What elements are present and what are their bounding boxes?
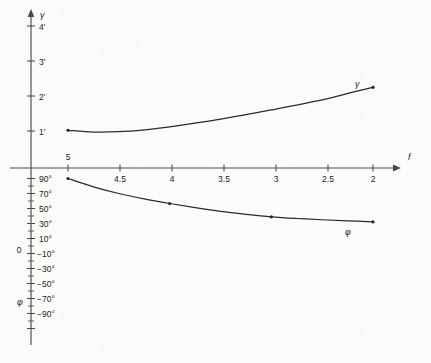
f-tick-label-5: 5	[66, 152, 71, 162]
data-point-marker	[371, 86, 374, 89]
data-point-marker	[66, 177, 69, 180]
vertical-axis	[28, 9, 35, 345]
phi-tick-label-neg90: −90°	[37, 309, 55, 319]
f-tick-label-3p5: 3.5	[218, 174, 230, 184]
phi-axis-symbol: φ	[17, 297, 23, 307]
gamma-tick-label-2: 2'	[39, 92, 46, 102]
gamma-axis-symbol: γ	[40, 10, 45, 20]
f-tick-label-2p5: 2.5	[322, 174, 334, 184]
gamma-axis-tick-labels: 1' 2' 3' 4'	[39, 22, 46, 137]
gamma-tick-label-3: 3'	[39, 57, 46, 67]
data-point-marker	[66, 129, 69, 132]
data-point-marker	[371, 220, 374, 223]
phi-tick-label-90: 90°	[39, 174, 52, 184]
chart-plot: 1' 2' 3' 4' γ	[0, 0, 431, 363]
phi-tick-label-neg30: −30°	[37, 264, 55, 274]
f-tick-label-4p5: 4.5	[114, 174, 126, 184]
phi-tick-label-70: 70°	[39, 189, 52, 199]
figure-container: 1' 2' 3' 4' γ	[0, 0, 431, 363]
phi-tick-label-50: 50°	[39, 204, 52, 214]
phi-tick-label-30: 30°	[39, 219, 52, 229]
data-point-marker	[168, 202, 171, 205]
gamma-curve-label: γ	[355, 79, 360, 89]
gamma-curve	[68, 87, 373, 132]
horizontal-axis-arrowhead	[393, 165, 401, 172]
phi-axis-tick-labels: 90° 70° 50° 30° 10° −10° −30° −50° −70° …	[37, 174, 55, 319]
phi-tick-label-10: 10°	[39, 234, 52, 244]
f-tick-label-4: 4	[170, 174, 175, 184]
gamma-tick-label-1: 1'	[39, 127, 46, 137]
f-tick-label-3: 3	[274, 174, 279, 184]
f-tick-label-2: 2	[371, 174, 376, 184]
phi-tick-label-neg10: −10°	[37, 249, 55, 259]
gamma-data-markers	[66, 86, 374, 132]
horizontal-axis	[10, 165, 401, 172]
vertical-axis-arrowhead	[28, 9, 35, 17]
gamma-curve-group	[66, 86, 374, 132]
gamma-tick-label-4: 4'	[39, 22, 46, 32]
phi-curve-label: φ	[345, 227, 351, 237]
f-axis-symbol: f	[408, 152, 412, 162]
phi-axis-zero-label: 0	[17, 245, 22, 255]
phi-tick-label-neg70: −70°	[37, 294, 55, 304]
data-point-marker	[270, 215, 273, 218]
phi-curve	[68, 179, 373, 222]
phi-tick-label-neg50: −50°	[37, 279, 55, 289]
